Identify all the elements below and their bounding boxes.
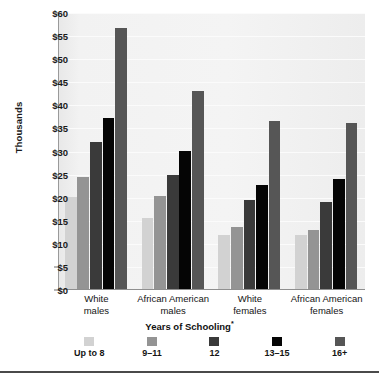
footnote-marker: *: [231, 320, 234, 327]
bar: [308, 230, 320, 290]
y-axis-tick-label: $30: [8, 146, 68, 157]
bar: [269, 121, 281, 290]
gridline: [58, 13, 365, 14]
y-axis-tick-mark: [54, 151, 58, 152]
x-axis-title-text: Years of Schooling: [145, 321, 231, 332]
x-axis-category-label: Whitemales: [58, 293, 135, 316]
y-axis-tick-mark: [54, 82, 58, 83]
bar: [192, 91, 204, 290]
x-axis-category-label-line: African American: [288, 293, 365, 305]
y-axis-tick-mark: [54, 266, 58, 267]
x-axis-category-label: Whitefemales: [212, 293, 289, 316]
x-axis-category-label-line: White: [212, 293, 289, 305]
bar: [167, 175, 179, 290]
bar: [115, 28, 127, 290]
bar: [179, 151, 191, 290]
bar: [295, 235, 307, 290]
x-axis-category-label-line: White: [58, 293, 135, 305]
x-axis-category-label-line: females: [212, 305, 289, 317]
x-axis-category-label-line: males: [58, 305, 135, 317]
bar: [142, 218, 154, 290]
x-axis-title: Years of Schooling*: [0, 320, 379, 332]
y-axis-tick-mark: [54, 290, 58, 291]
y-axis-tick-label: $25: [8, 169, 68, 180]
legend-swatch: [209, 337, 219, 346]
x-axis-category-label-line: males: [135, 305, 212, 317]
x-axis-category-label-line: females: [288, 305, 365, 317]
y-axis-tick-mark: [54, 105, 58, 106]
legend-swatch: [272, 337, 282, 346]
chart-legend: Up to 89–111213–1516+: [58, 337, 371, 363]
gridline: [58, 59, 365, 60]
legend-item: 12: [183, 337, 246, 358]
x-axis-line: [58, 289, 365, 290]
legend-item: 13–15: [246, 337, 309, 358]
y-axis-tick-label: $5: [8, 261, 68, 272]
bar: [90, 142, 102, 290]
y-axis-tick-label: $55: [8, 31, 68, 42]
bar: [333, 179, 345, 290]
y-axis-tick-label: $50: [8, 54, 68, 65]
gridline: [58, 82, 365, 83]
y-axis-tick-label: $45: [8, 77, 68, 88]
legend-item: Up to 8: [58, 337, 121, 358]
legend-item: 9–11: [121, 337, 184, 358]
gridline: [58, 105, 365, 106]
legend-swatch: [147, 337, 157, 346]
legend-label: 9–11: [121, 348, 184, 358]
bar: [77, 177, 89, 290]
x-axis-category-label: African Americanfemales: [288, 293, 365, 316]
legend-swatch: [84, 337, 94, 346]
bar: [256, 185, 268, 290]
legend-item: 16+: [308, 337, 371, 358]
y-axis-tick-mark: [54, 59, 58, 60]
y-axis-tick-mark: [54, 36, 58, 37]
y-axis-tick-mark: [54, 243, 58, 244]
y-axis-tick-mark: [54, 13, 58, 14]
bar-chart-figure: Thousands $0$5$10$15$20$25$30$35$40$45$5…: [0, 0, 379, 378]
x-axis-category-label-line: African American: [135, 293, 212, 305]
bar: [218, 235, 230, 290]
legend-label: 16+: [308, 348, 371, 358]
bottom-rule: [0, 371, 379, 373]
y-axis-tick-label: $60: [8, 8, 68, 19]
y-axis-tick-mark: [54, 174, 58, 175]
y-axis-tick-mark: [54, 197, 58, 198]
legend-label: 13–15: [246, 348, 309, 358]
legend-label: Up to 8: [58, 348, 121, 358]
y-axis-tick-label: $10: [8, 238, 68, 249]
plot-area: [58, 13, 365, 290]
bar: [231, 227, 243, 290]
y-axis-tick-label: $20: [8, 192, 68, 203]
legend-label: 12: [183, 348, 246, 358]
bar: [244, 200, 256, 290]
legend-swatch: [335, 337, 345, 346]
y-axis-tick-label: $40: [8, 100, 68, 111]
gridline: [58, 36, 365, 37]
y-axis-tick-label: $35: [8, 123, 68, 134]
bar: [346, 123, 358, 290]
bar: [154, 196, 166, 290]
y-axis-tick-mark: [54, 128, 58, 129]
y-axis-tick-label: $15: [8, 215, 68, 226]
x-axis-category-label: African Americanmales: [135, 293, 212, 316]
bar: [103, 118, 115, 290]
y-axis-tick-mark: [54, 220, 58, 221]
bar: [320, 202, 332, 290]
